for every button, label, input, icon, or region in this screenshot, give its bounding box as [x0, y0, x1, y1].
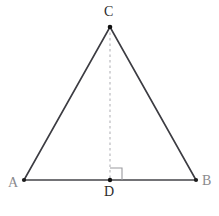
vertex-label-a: A [8, 176, 18, 190]
vertex-label-b: B [202, 174, 211, 188]
vertex-dot-d [108, 178, 112, 182]
vertex-dot-c [108, 25, 113, 30]
geometry-figure: A B C D [0, 0, 219, 216]
segment-bc [110, 27, 196, 180]
segment-ac [24, 27, 110, 180]
vertex-dot-b [194, 178, 198, 182]
vertex-label-d: D [104, 185, 114, 199]
vertex-label-c: C [104, 5, 113, 19]
vertex-dot-a [22, 178, 26, 182]
right-angle-marker-icon [110, 168, 122, 180]
